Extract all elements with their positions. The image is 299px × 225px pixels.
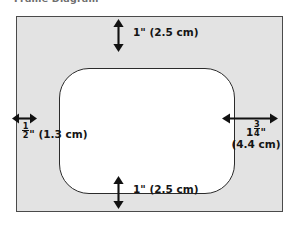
right-margin-fraction-denominator: 4 bbox=[254, 129, 261, 137]
left-margin-fraction: 1 2 bbox=[22, 122, 29, 139]
right-margin-whole: 1 bbox=[246, 126, 253, 138]
left-margin-fraction-denominator: 2 bbox=[22, 131, 29, 139]
top-margin-arrow-icon bbox=[112, 19, 125, 52]
right-margin-inches-line: 1 3 4 " bbox=[228, 120, 284, 138]
left-margin-inch-mark: " bbox=[29, 128, 34, 140]
right-margin-inch-mark: " bbox=[261, 126, 266, 138]
left-margin-label: 1 2 " (1.3 cm) bbox=[22, 122, 87, 140]
right-margin-fraction: 3 4 bbox=[254, 120, 261, 137]
left-margin-metric: (1.3 cm) bbox=[38, 128, 87, 140]
page-title: Frame Diagram bbox=[14, 0, 99, 4]
right-margin-label: 1 3 4 " (4.4 cm) bbox=[228, 120, 284, 150]
top-margin-label: 1" (2.5 cm) bbox=[133, 26, 198, 38]
bottom-margin-label: 1" (2.5 cm) bbox=[133, 183, 198, 195]
bottom-margin-arrow-icon bbox=[112, 176, 125, 209]
right-margin-metric: (4.4 cm) bbox=[228, 138, 284, 150]
